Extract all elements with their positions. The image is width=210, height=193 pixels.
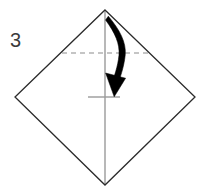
diagram-canvas: 3: [0, 0, 210, 193]
origami-step-diagram: 3: [0, 0, 210, 193]
step-number-label: 3: [10, 29, 21, 51]
